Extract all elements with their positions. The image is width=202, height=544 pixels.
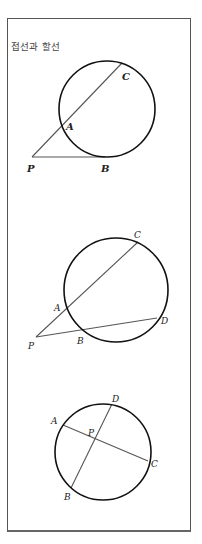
point-label-b: B	[63, 492, 71, 502]
point-label-a: A	[65, 121, 74, 132]
point-label-d: D	[160, 316, 168, 326]
point-label-p: P	[87, 428, 95, 438]
point-label-p: P	[26, 163, 35, 174]
segment-pc	[32, 63, 122, 157]
point-label-c: C	[122, 71, 130, 82]
diagram-intersecting-chords: ACDBP	[50, 394, 158, 502]
point-label-a: A	[50, 416, 58, 426]
circle	[55, 404, 151, 500]
geometry-diagrams: PACB PACBD ACDBP	[0, 0, 202, 544]
diagram-two-secants: PACBD	[27, 230, 168, 351]
point-label-a: A	[53, 303, 61, 313]
segment-db	[71, 404, 112, 488]
circle	[64, 238, 168, 342]
segment-pc	[36, 242, 138, 337]
point-label-c: C	[151, 459, 158, 469]
point-label-c: C	[134, 230, 141, 240]
point-label-b: B	[76, 336, 84, 346]
circle	[59, 61, 155, 157]
point-label-p: P	[27, 341, 35, 351]
segment-ac	[63, 425, 148, 461]
segment-pd	[36, 318, 157, 337]
point-label-b: B	[100, 163, 109, 174]
diagram-tangent-secant: PACB	[26, 61, 155, 174]
point-label-d: D	[111, 394, 119, 404]
